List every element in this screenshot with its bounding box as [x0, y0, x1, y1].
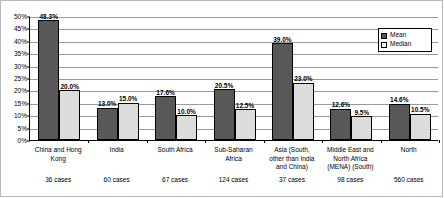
bar-chart: 0%5%10%15%20%25%30%35%40%45%50% 48.3%20.…	[0, 0, 444, 198]
chart-legend: Mean Median	[378, 28, 432, 52]
category-label: North	[380, 146, 438, 155]
category-label: Asia (South, other than India and China)	[263, 146, 321, 172]
case-count-label: 560 cases	[380, 176, 438, 185]
category-label: Sub-Saharan Africa	[204, 146, 262, 163]
legend-swatch-median-icon	[381, 42, 387, 48]
y-tick-mark	[27, 141, 30, 142]
bar-median: 10.5%	[410, 114, 431, 140]
y-tick-label: 50%	[14, 14, 27, 21]
y-tick-label: 15%	[14, 101, 27, 108]
y-tick-mark	[27, 54, 30, 55]
case-count-label: 124 cases	[204, 176, 262, 185]
legend-label-mean: Mean	[390, 32, 406, 39]
bar-label-median: 10.5%	[411, 107, 429, 114]
bar-label-mean: 20.5%	[215, 83, 233, 90]
legend-swatch-mean-icon	[381, 33, 387, 39]
case-count-label: 37 cases	[263, 176, 321, 185]
bar-group: 20.5%12.5%	[214, 17, 256, 140]
bar-label-mean: 39.0%	[273, 37, 291, 44]
category-label: China and Hong Kong	[29, 146, 87, 163]
y-tick-mark	[27, 29, 30, 30]
bar-mean: 39.0%	[272, 43, 293, 140]
legend-label-median: Median	[390, 41, 411, 48]
bar-median: 10.0%	[176, 115, 197, 140]
y-tick-mark	[27, 103, 30, 104]
case-count-label: 36 cases	[29, 176, 87, 185]
bar-group: 12.6%9.5%	[330, 17, 372, 140]
x-tick-mark	[322, 140, 323, 143]
bar-label-mean: 12.6%	[332, 102, 350, 109]
bar-group: 17.6%10.0%	[155, 17, 197, 140]
bar-mean: 13.0%	[97, 108, 118, 140]
bar-group: 13.0%15.0%	[97, 17, 139, 140]
y-tick-label: 0%	[18, 138, 27, 145]
y-tick-label: 20%	[14, 88, 27, 95]
bar-group: 48.3%20.0%	[38, 17, 80, 140]
legend-item-mean: Mean	[381, 31, 429, 40]
y-tick-mark	[27, 91, 30, 92]
bar-label-median: 9.5%	[354, 110, 369, 117]
x-tick-mark	[205, 140, 206, 143]
x-tick-mark	[439, 140, 440, 143]
bar-mean: 17.6%	[155, 96, 176, 140]
bar-label-median: 23.0%	[294, 76, 312, 83]
y-tick-mark	[27, 116, 30, 117]
bar-label-median: 12.5%	[236, 103, 254, 110]
x-tick-mark	[264, 140, 265, 143]
bar-label-median: 15.0%	[119, 96, 137, 103]
y-tick-label: 5%	[18, 125, 27, 132]
case-count-label: 98 cases	[321, 176, 379, 185]
plot-area: 0%5%10%15%20%25%30%35%40%45%50% 48.3%20.…	[29, 17, 438, 141]
x-tick-mark	[381, 140, 382, 143]
bar-group: 39.0%23.0%	[272, 17, 314, 140]
bar-label-mean: 14.6%	[390, 97, 408, 104]
bar-median: 23.0%	[293, 83, 314, 140]
x-tick-mark	[147, 140, 148, 143]
case-count-label: 60 cases	[87, 176, 145, 185]
y-tick-mark	[27, 128, 30, 129]
bar-median: 15.0%	[118, 103, 139, 140]
y-tick-label: 35%	[14, 51, 27, 58]
y-tick-label: 30%	[14, 63, 27, 70]
case-count-label: 67 cases	[146, 176, 204, 185]
y-tick-mark	[27, 41, 30, 42]
y-tick-label: 10%	[14, 113, 27, 120]
legend-item-median: Median	[381, 40, 429, 49]
bar-median: 20.0%	[59, 90, 80, 140]
category-label: Middle East and North Africa (MENA) (Sou…	[321, 146, 379, 172]
bar-mean: 20.5%	[214, 89, 235, 140]
category-label: India	[87, 146, 145, 155]
x-tick-mark	[88, 140, 89, 143]
bar-label-mean: 13.0%	[98, 101, 116, 108]
bar-label-median: 20.0%	[60, 84, 78, 91]
bar-median: 12.5%	[235, 109, 256, 140]
bar-label-mean: 48.3%	[39, 14, 57, 21]
y-tick-label: 25%	[14, 76, 27, 83]
y-tick-mark	[27, 17, 30, 18]
bar-mean: 14.6%	[389, 104, 410, 140]
category-label: South Africa	[146, 146, 204, 155]
bar-mean: 12.6%	[330, 109, 351, 140]
bar-mean: 48.3%	[38, 20, 59, 140]
bar-label-mean: 17.6%	[156, 90, 174, 97]
y-tick-mark	[27, 66, 30, 67]
y-tick-label: 40%	[14, 39, 27, 46]
y-tick-label: 45%	[14, 26, 27, 33]
y-tick-mark	[27, 79, 30, 80]
bar-median: 9.5%	[351, 116, 372, 140]
bar-label-median: 10.0%	[177, 109, 195, 116]
